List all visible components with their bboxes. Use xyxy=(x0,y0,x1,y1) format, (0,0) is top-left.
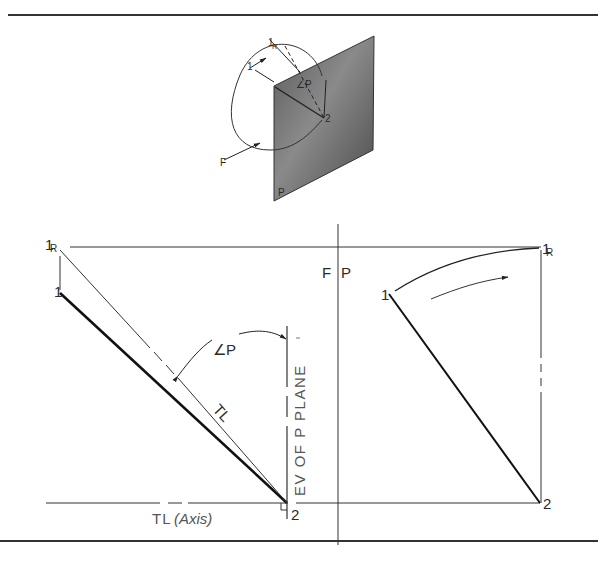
pictorial-label-p: P xyxy=(278,187,285,198)
left-label-ev: EV OF P PLANE xyxy=(291,364,308,496)
left-line-1r-2-c xyxy=(166,365,174,374)
right-label-1r-sub: R xyxy=(546,247,553,258)
right-label-1: 1 xyxy=(381,286,389,303)
left-view: 1 R 1 ∠P TL EV OF P PLANE 2 TL (Axis) xyxy=(45,236,308,527)
pictorial-label-angle: ∠P xyxy=(296,79,312,90)
right-angle-marker xyxy=(281,503,287,510)
right-revolution-arc xyxy=(395,248,539,291)
left-line-1r-2-d xyxy=(178,378,287,503)
right-line-1-2 xyxy=(389,294,540,503)
left-label-angle: ∠P xyxy=(213,341,236,358)
right-view: 1 1 R 2 xyxy=(381,240,553,512)
axis-label-tl: TL xyxy=(152,510,172,527)
diagram-canvas: 1 1 R ∠P 2 F P F P 1 R xyxy=(0,0,607,562)
right-label-2: 2 xyxy=(543,495,551,512)
left-line-1-2 xyxy=(60,293,287,503)
left-label-1: 1 xyxy=(54,283,62,300)
left-line-1r-2-b xyxy=(154,352,162,361)
fold-label-p: P xyxy=(341,264,351,281)
pictorial-label-1: 1 xyxy=(247,61,253,72)
fold-label-f: F xyxy=(322,264,331,281)
angle-arc xyxy=(178,340,212,376)
pictorial-view: 1 1 R ∠P 2 F P xyxy=(220,36,374,201)
left-label-2: 2 xyxy=(291,506,299,523)
arrow-f xyxy=(224,143,260,160)
angle-arc-right xyxy=(239,331,286,339)
rotation-arrow xyxy=(431,277,508,299)
pictorial-projector xyxy=(255,70,274,82)
left-label-tl: TL xyxy=(210,401,234,425)
pictorial-label-2: 2 xyxy=(325,113,331,124)
axis-label-note: (Axis) xyxy=(174,510,212,527)
pictorial-label-1r-sub: R xyxy=(272,43,277,50)
pictorial-label-f: F xyxy=(220,157,226,168)
left-label-1r-sub: R xyxy=(50,243,57,254)
